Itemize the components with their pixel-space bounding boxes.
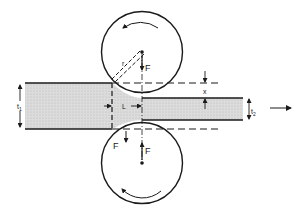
top-roll-center (140, 50, 144, 54)
radius-line-a (111, 51, 140, 80)
bottom-roll-force-label: F (145, 146, 151, 156)
bottom-roll-center (140, 161, 144, 165)
rolling-diagram: r F F F t1 t2 x L (0, 0, 299, 214)
rotation-arrow-ccw-icon (123, 22, 158, 28)
rotation-arrow-cw-icon (122, 189, 161, 198)
top-roll: r F (102, 12, 183, 93)
t2-label: t2 (251, 108, 256, 117)
x-label: x (203, 88, 207, 95)
dimension-t1: t1 (15, 85, 25, 127)
strip-force-label: F (113, 141, 119, 151)
dimension-t2: t2 (249, 99, 256, 119)
radius-line-b (114, 54, 144, 83)
l-label: L (122, 103, 126, 110)
top-roll-force-label: F (145, 63, 151, 73)
